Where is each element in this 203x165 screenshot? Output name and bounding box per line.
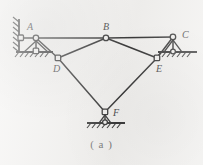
joint-label-B: B	[103, 22, 109, 32]
member-D-F	[58, 58, 105, 112]
joint-label-D: D	[53, 64, 60, 74]
joint-label-C: C	[182, 30, 189, 40]
joint-C	[170, 34, 176, 40]
joint-wall-pin	[18, 35, 24, 41]
member-D-B	[58, 38, 106, 58]
member-B-C	[106, 37, 173, 38]
joint-A-ground-pin	[33, 48, 39, 54]
joint-label-F: F	[113, 108, 119, 118]
joint-label-A: A	[27, 22, 33, 32]
member-B-E	[106, 38, 157, 58]
joint-E	[154, 55, 160, 61]
joint-label-E: E	[156, 64, 162, 74]
joint-F-ground-pin	[103, 120, 108, 125]
figure-caption: ( a )	[0, 138, 203, 150]
joint-C-ground-pin	[171, 49, 176, 54]
joints-layer	[18, 34, 176, 125]
joint-B	[103, 35, 109, 41]
figure-container: A B C D E F ( a )	[0, 0, 203, 165]
member-F-E	[105, 58, 157, 112]
joint-A	[33, 35, 39, 41]
joint-D	[55, 55, 61, 61]
members-layer	[21, 37, 173, 123]
joint-F	[102, 109, 108, 115]
